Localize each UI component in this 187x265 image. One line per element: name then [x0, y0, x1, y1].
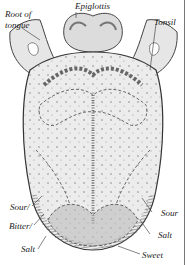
- label-salt-left: Salt: [21, 245, 35, 254]
- epiglottis-shape: [64, 13, 123, 52]
- label-bitter: Bitter/: [9, 222, 32, 231]
- label-root-of-tongue-1: Root of: [5, 10, 31, 19]
- label-sour-left: Sour/: [10, 203, 30, 212]
- label-sour-right: Sour: [161, 209, 178, 218]
- label-epiglottis: Epiglottis: [75, 2, 110, 11]
- label-sweet: Sweet: [142, 251, 163, 260]
- label-salt-right: Salt: [158, 231, 172, 240]
- label-tonsil: Tonsil: [154, 18, 176, 27]
- label-root-of-tongue-2: tongue: [5, 21, 30, 30]
- diagram-frame: Root of tongue Epiglottis Tonsil Sour/ B…: [0, 0, 185, 265]
- tongue-body: [23, 52, 163, 250]
